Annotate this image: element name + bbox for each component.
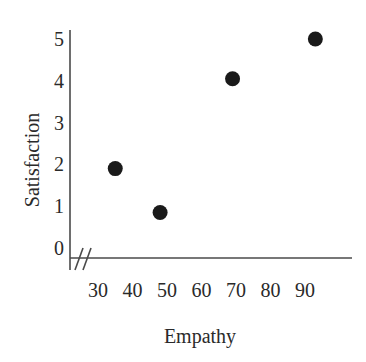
- scatter-plot-figure: 012345 30405060708090 Satisfaction Empat…: [0, 0, 366, 362]
- y-tick-label: 0: [54, 238, 64, 258]
- x-tick-label: 90: [295, 280, 315, 300]
- y-tick-label: 2: [54, 154, 64, 174]
- x-tick-label: 40: [123, 280, 143, 300]
- data-point-group: [108, 32, 323, 220]
- y-tick-label: 4: [54, 71, 64, 91]
- y-axis-title: Satisfaction: [22, 113, 42, 207]
- data-point: [108, 161, 123, 176]
- x-tick-label: 70: [226, 280, 246, 300]
- y-tick-label: 1: [54, 196, 64, 216]
- x-tick-label: 30: [88, 280, 108, 300]
- x-axis-title: Empathy: [164, 326, 236, 346]
- axis-break-icon: [75, 248, 91, 270]
- data-point: [308, 32, 323, 47]
- y-tick-label: 5: [54, 29, 64, 49]
- x-tick-label: 80: [261, 280, 281, 300]
- data-point: [225, 71, 240, 86]
- x-tick-label: 50: [157, 280, 177, 300]
- y-tick-label: 3: [54, 113, 64, 133]
- plot-canvas: [0, 0, 366, 362]
- data-point: [153, 205, 168, 220]
- x-tick-label: 60: [192, 280, 212, 300]
